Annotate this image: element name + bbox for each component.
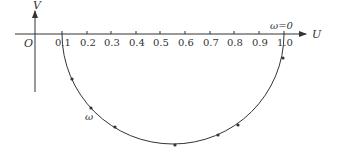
direction-dot bbox=[281, 56, 284, 59]
direction-dot bbox=[70, 77, 73, 80]
nyquist-diagram: U V O 0.1 0.2 0.3 0.4 0.5 0.6 0.7 0.8 0.… bbox=[0, 0, 338, 155]
tick-label: 1.0 bbox=[277, 37, 293, 48]
direction-dot bbox=[173, 143, 176, 146]
tick-label: 0.3 bbox=[104, 37, 120, 48]
direction-dot bbox=[89, 106, 92, 109]
tick-label: 0.9 bbox=[252, 37, 268, 48]
nyquist-curve bbox=[62, 34, 284, 144]
direction-dot bbox=[113, 125, 116, 128]
tick-label: 0.8 bbox=[227, 37, 243, 48]
direction-dot bbox=[216, 133, 219, 136]
tick-label: 0.6 bbox=[178, 37, 194, 48]
x-tick-labels: 0.1 0.2 0.3 0.4 0.5 0.6 0.7 0.8 0.9 1.0 bbox=[55, 37, 293, 48]
origin-label: O bbox=[24, 37, 33, 50]
omega-zero-label: ω=0 bbox=[270, 20, 294, 31]
curve-direction-markers bbox=[70, 56, 284, 146]
tick-label: 0.4 bbox=[129, 37, 145, 48]
tick-label: 0.5 bbox=[153, 37, 169, 48]
v-axis-label: V bbox=[33, 0, 42, 12]
direction-dot bbox=[236, 123, 239, 126]
omega-label: ω bbox=[85, 111, 93, 122]
u-axis-label: U bbox=[312, 28, 322, 41]
tick-label: 0.2 bbox=[80, 37, 96, 48]
tick-label: 0.7 bbox=[203, 37, 219, 48]
